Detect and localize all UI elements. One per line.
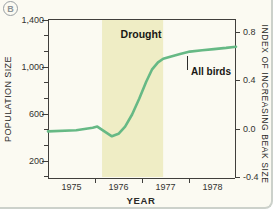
x-axis-tick-label: 1978	[195, 182, 231, 193]
x-axis-title: YEAR	[101, 195, 181, 206]
right-axis-tick-label: 0.4	[243, 75, 271, 86]
left-axis-tick-label: 1,400	[0, 15, 44, 26]
right-axis-title: INDEX OF INCREASING BEAK SIZE	[258, 21, 270, 187]
series-label-all-birds: All birds	[191, 66, 231, 77]
drought-band-label: Drought	[121, 28, 162, 40]
left-axis-tick-label: 600	[0, 109, 44, 120]
x-axis-tick-label: 1976	[101, 182, 137, 193]
drought-band	[102, 20, 163, 177]
x-axis-tick-label: 1977	[148, 182, 184, 193]
right-axis-tick-label: 0.8	[243, 27, 271, 38]
left-axis-tick-label: 200	[0, 156, 44, 167]
finch-beak-chart-figure: B POPULATION SIZE INDEX OF INCREASING BE…	[0, 0, 273, 209]
x-axis-tick-label: 1975	[54, 182, 90, 193]
left-axis-tick-label: 1,000	[0, 62, 44, 73]
right-axis-tick-label: -0.4	[243, 172, 271, 183]
right-axis-tick-label: 0.0	[243, 124, 271, 135]
